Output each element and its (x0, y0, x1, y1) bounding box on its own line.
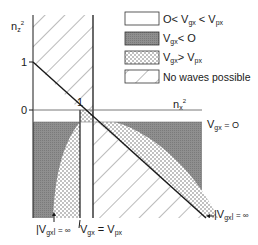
legend-swatch-white (125, 12, 159, 25)
legend-swatch-hatched (125, 70, 159, 83)
vgx-inf-bottom-label: |Vgx| = ∞ (36, 224, 71, 236)
legend-item-gray: Vgx< O (163, 33, 196, 45)
legend-swatch-dotted (125, 51, 159, 64)
legend-swatch-gray (125, 32, 159, 45)
intersection-label: 1 (77, 97, 83, 108)
no-waves-region-top (33, 15, 93, 110)
vgx-inf-right-label: |Vgx| = ∞ (214, 209, 249, 221)
vgx-eq-vpx-label: Vgx = Vpx (80, 224, 122, 236)
legend-item-dotted: Vgx> Vpx (163, 52, 202, 64)
vgx-between-region (80, 122, 93, 218)
vgx-zero-label: Vgx = O (207, 119, 239, 131)
y-tick-0: 0 (21, 105, 27, 116)
x-axis-label: nx2 (173, 98, 186, 111)
legend-item-white: O< Vgx < Vpx (163, 14, 223, 26)
legend-item-hatched: No waves possible (163, 72, 251, 83)
y-tick-1: 1 (21, 57, 27, 68)
y-axis-label: nz2 (11, 20, 24, 33)
